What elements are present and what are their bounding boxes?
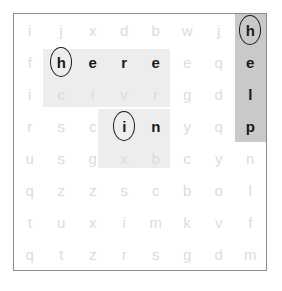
grid-letter: g: [183, 87, 191, 102]
grid-letter: c: [152, 183, 160, 198]
grid-cell-r6-c3[interactable]: i: [109, 206, 141, 238]
grid-cell-r2-c1[interactable]: c: [46, 78, 78, 110]
grid-letter: y: [215, 151, 223, 166]
grid-cell-r1-c0[interactable]: f: [14, 46, 46, 78]
grid-cell-r1-c4[interactable]: e: [140, 46, 172, 78]
grid-letter: v: [121, 87, 129, 102]
grid-cell-r1-c3[interactable]: r: [109, 46, 141, 78]
grid-cell-r7-c5[interactable]: g: [172, 238, 204, 270]
grid-letter: z: [89, 247, 97, 262]
grid-cell-r4-c2[interactable]: g: [77, 142, 109, 174]
grid-cell-r5-c5[interactable]: b: [172, 174, 204, 206]
grid-cell-r4-c1[interactable]: s: [46, 142, 78, 174]
grid-cell-r7-c0[interactable]: q: [14, 238, 46, 270]
grid-cell-r2-c6[interactable]: d: [203, 78, 235, 110]
grid-cell-r5-c0[interactable]: q: [14, 174, 46, 206]
grid-cell-r2-c0[interactable]: i: [14, 78, 46, 110]
grid-letter: j: [217, 23, 220, 38]
grid-letter: z: [58, 183, 66, 198]
grid-cell-r5-c3[interactable]: s: [109, 174, 141, 206]
grid-letter: r: [122, 247, 127, 262]
grid-cell-r1-c5[interactable]: e: [172, 46, 204, 78]
grid-cell-r7-c6[interactable]: d: [203, 238, 235, 270]
grid-letter: j: [60, 23, 63, 38]
grid-letter: m: [150, 215, 163, 230]
grid-cell-r4-c4[interactable]: b: [140, 142, 172, 174]
grid-letter: k: [184, 215, 192, 230]
grid-letter: s: [152, 247, 160, 262]
grid-letter: s: [58, 119, 66, 134]
grid-cell-r6-c1[interactable]: u: [46, 206, 78, 238]
letter-grid: ijxdbwjhfhereeqeicivrgdlrscinyqpusgxbcyn…: [14, 14, 266, 270]
grid-letter: f: [248, 215, 252, 230]
grid-cell-r3-c2[interactable]: c: [77, 110, 109, 142]
grid-letter: c: [89, 119, 97, 134]
grid-cell-r0-c6[interactable]: j: [203, 14, 235, 46]
grid-cell-r0-c3[interactable]: d: [109, 14, 141, 46]
grid-cell-r6-c4[interactable]: m: [140, 206, 172, 238]
grid-cell-r6-c6[interactable]: v: [203, 206, 235, 238]
grid-letter: f: [28, 55, 32, 70]
grid-cell-r4-c5[interactable]: c: [172, 142, 204, 174]
grid-cell-r0-c2[interactable]: x: [77, 14, 109, 46]
grid-letter: b: [152, 151, 160, 166]
grid-cell-r0-c5[interactable]: w: [172, 14, 204, 46]
grid-cell-r0-c7[interactable]: h: [235, 14, 267, 46]
word-search-puzzle: ijxdbwjhfhereeqeicivrgdlrscinyqpusgxbcyn…: [0, 0, 282, 291]
grid-cell-r3-c0[interactable]: r: [14, 110, 46, 142]
grid-letter: q: [26, 183, 34, 198]
grid-cell-r6-c0[interactable]: t: [14, 206, 46, 238]
grid-letter: t: [28, 215, 32, 230]
grid-cell-r2-c3[interactable]: v: [109, 78, 141, 110]
grid-letter: h: [57, 55, 66, 70]
grid-cell-r3-c6[interactable]: q: [203, 110, 235, 142]
grid-letter: e: [183, 55, 191, 70]
grid-cell-r7-c2[interactable]: z: [77, 238, 109, 270]
grid-cell-r5-c1[interactable]: z: [46, 174, 78, 206]
grid-letter: d: [215, 247, 223, 262]
grid-letter: u: [57, 215, 65, 230]
grid-cell-r3-c4[interactable]: n: [140, 110, 172, 142]
grid-cell-r1-c2[interactable]: e: [77, 46, 109, 78]
grid-cell-r6-c5[interactable]: k: [172, 206, 204, 238]
grid-cell-r7-c3[interactable]: r: [109, 238, 141, 270]
grid-letter: o: [215, 183, 223, 198]
grid-cell-r0-c4[interactable]: b: [140, 14, 172, 46]
grid-cell-r2-c7[interactable]: l: [235, 78, 267, 110]
grid-cell-r0-c0[interactable]: i: [14, 14, 46, 46]
grid-cell-r4-c3[interactable]: x: [109, 142, 141, 174]
grid-cell-r2-c4[interactable]: r: [140, 78, 172, 110]
grid-cell-r3-c5[interactable]: y: [172, 110, 204, 142]
grid-cell-r7-c1[interactable]: t: [46, 238, 78, 270]
grid-letter: m: [244, 247, 257, 262]
grid-cell-r6-c7[interactable]: f: [235, 206, 267, 238]
grid-cell-r6-c2[interactable]: x: [77, 206, 109, 238]
grid-cell-r5-c4[interactable]: c: [140, 174, 172, 206]
grid-cell-r7-c4[interactable]: s: [140, 238, 172, 270]
grid-letter: e: [246, 55, 254, 70]
grid-cell-r3-c1[interactable]: s: [46, 110, 78, 142]
grid-letter: i: [28, 87, 31, 102]
grid-cell-r4-c6[interactable]: y: [203, 142, 235, 174]
puzzle-grid-frame: ijxdbwjhfhereeqeicivrgdlrscinyqpusgxbcyn…: [13, 13, 267, 271]
grid-cell-r3-c7[interactable]: p: [235, 110, 267, 142]
grid-cell-r4-c0[interactable]: u: [14, 142, 46, 174]
grid-cell-r2-c2[interactable]: i: [77, 78, 109, 110]
grid-cell-r1-c1[interactable]: h: [46, 46, 78, 78]
grid-cell-r1-c6[interactable]: q: [203, 46, 235, 78]
grid-cell-r0-c1[interactable]: j: [46, 14, 78, 46]
grid-cell-r5-c6[interactable]: o: [203, 174, 235, 206]
grid-letter: q: [215, 55, 223, 70]
grid-letter: g: [183, 247, 191, 262]
grid-letter: l: [249, 183, 252, 198]
grid-cell-r4-c7[interactable]: n: [235, 142, 267, 174]
grid-cell-r5-c7[interactable]: l: [235, 174, 267, 206]
grid-cell-r3-c3[interactable]: i: [109, 110, 141, 142]
grid-cell-r1-c7[interactable]: e: [235, 46, 267, 78]
grid-cell-r7-c7[interactable]: m: [235, 238, 267, 270]
grid-letter: r: [153, 87, 158, 102]
grid-cell-r2-c5[interactable]: g: [172, 78, 204, 110]
grid-letter: n: [151, 119, 160, 134]
grid-cell-r5-c2[interactable]: z: [77, 174, 109, 206]
grid-letter: v: [215, 215, 223, 230]
